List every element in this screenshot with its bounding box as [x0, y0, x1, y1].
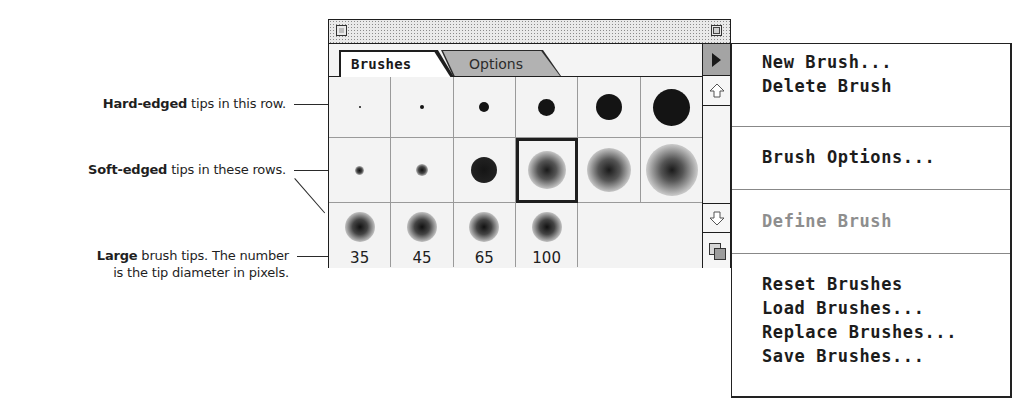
brush-tip-hard-2[interactable]	[391, 77, 453, 138]
palette-scrollbar[interactable]	[702, 44, 730, 268]
hard-tip-icon	[420, 105, 424, 109]
soft-tip-icon	[646, 144, 698, 196]
palette-menu-arrow-icon[interactable]	[703, 44, 730, 76]
menu-item-reset-brushes[interactable]: Reset Brushes	[762, 273, 903, 295]
callout-large-text: brush tips. The number	[137, 248, 289, 263]
menu-separator	[732, 189, 1010, 190]
tab-options-label[interactable]: Options	[469, 52, 523, 76]
brush-tip-large-65[interactable]: 65	[454, 203, 516, 267]
brush-size-label: 65	[454, 249, 515, 267]
brush-slot-empty	[641, 203, 703, 267]
menu-item-brush-options[interactable]: Brush Options...	[762, 146, 935, 168]
brush-tip-hard-5[interactable]	[578, 77, 640, 138]
brush-tip-large-45[interactable]: 45	[391, 203, 453, 267]
soft-tip-icon	[345, 212, 375, 242]
callout-line-hard	[294, 104, 328, 105]
soft-tip-icon	[407, 212, 437, 242]
menu-separator	[732, 126, 1010, 127]
brush-grid: 35 45 65 100	[329, 77, 703, 268]
soft-tip-icon	[532, 212, 562, 242]
menu-item-delete-brush[interactable]: Delete Brush	[762, 75, 892, 97]
menu-separator	[732, 253, 1010, 254]
resize-box[interactable]	[703, 233, 730, 268]
scroll-down-button[interactable]	[703, 203, 730, 233]
brush-tip-hard-1[interactable]	[329, 77, 391, 138]
brush-tip-large-100[interactable]: 100	[516, 203, 578, 267]
hard-tip-icon	[359, 106, 361, 108]
callout-hard-edged-text: tips in this row.	[187, 96, 286, 111]
callout-large: Large brush tips. The number is the tip …	[97, 247, 289, 281]
callout-line-soft	[294, 170, 328, 171]
callout-soft-edged: Soft-edged tips in these rows.	[88, 161, 286, 178]
brush-tip-hard-3[interactable]	[454, 77, 516, 138]
brush-tip-soft-3[interactable]	[454, 138, 516, 203]
resize-icon	[709, 243, 725, 259]
callout-large-text-line2: is the tip diameter in pixels.	[113, 265, 289, 280]
brush-tip-large-35[interactable]: 35	[329, 203, 391, 267]
callout-soft-edged-text: tips in these rows.	[167, 162, 286, 177]
brush-tip-soft-1[interactable]	[329, 138, 391, 203]
tab-brushes-label[interactable]: Brushes	[351, 52, 411, 76]
callout-large-bold: Large	[97, 248, 138, 263]
scroll-up-button[interactable]	[703, 76, 730, 106]
menu-item-new-brush[interactable]: New Brush...	[762, 51, 892, 73]
hard-tip-icon	[538, 99, 555, 116]
brush-size-label: 100	[516, 249, 577, 267]
brush-tip-hard-6[interactable]	[641, 77, 703, 138]
soft-tip-icon	[355, 166, 364, 175]
arrow-down-icon	[708, 209, 726, 227]
arrow-up-icon	[708, 82, 726, 100]
hard-tip-icon	[479, 102, 489, 112]
brush-tip-soft-6[interactable]	[641, 138, 703, 203]
brush-size-label: 35	[329, 249, 390, 267]
hard-tip-icon	[596, 94, 622, 120]
hard-tip-icon	[653, 89, 690, 126]
soft-tip-icon	[416, 164, 428, 176]
callout-line-soft-diagonal	[294, 178, 325, 213]
menu-item-save-brushes[interactable]: Save Brushes...	[762, 345, 925, 367]
soft-tip-icon	[528, 151, 566, 189]
menu-item-define-brush: Define Brush	[762, 210, 892, 232]
brushes-palette-menu: New Brush... Delete Brush Brush Options.…	[731, 43, 1012, 398]
soft-tip-icon	[469, 212, 499, 242]
brush-tip-soft-4-selected[interactable]	[516, 138, 578, 203]
brush-tip-hard-4[interactable]	[516, 77, 578, 138]
brush-tip-soft-2[interactable]	[391, 138, 453, 203]
palette-titlebar[interactable]	[329, 20, 730, 44]
menu-item-replace-brushes[interactable]: Replace Brushes...	[762, 321, 957, 343]
soft-tip-icon	[587, 148, 631, 192]
brush-size-label: 45	[391, 249, 452, 267]
callout-hard-edged-bold: Hard-edged	[103, 96, 187, 111]
brush-slot-empty	[578, 203, 640, 267]
brush-tip-soft-5[interactable]	[578, 138, 640, 203]
tab-row: Options Brushes	[329, 44, 703, 77]
brushes-palette: Options Brushes 35 45 65 100	[328, 19, 731, 268]
callout-hard-edged: Hard-edged tips in this row.	[103, 95, 286, 112]
menu-item-load-brushes[interactable]: Load Brushes...	[762, 297, 925, 319]
close-box-icon[interactable]	[336, 25, 347, 36]
soft-tip-icon	[471, 157, 497, 183]
zoom-box-icon[interactable]	[711, 25, 722, 36]
callout-soft-edged-bold: Soft-edged	[88, 162, 167, 177]
